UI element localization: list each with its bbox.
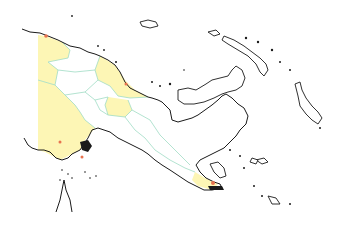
marker-daru xyxy=(81,156,84,159)
cape-york-coast xyxy=(56,180,72,212)
new-hanover-island xyxy=(208,30,220,36)
fly-delta-detail xyxy=(80,140,92,152)
marker-fly-delta xyxy=(59,141,62,144)
marker-north-coast xyxy=(44,34,48,38)
torres-strait-islands xyxy=(59,169,97,181)
marker-milne-bay xyxy=(211,181,215,185)
new-britain-island xyxy=(178,66,245,104)
manus-island xyxy=(140,20,158,28)
dentrecasteaux-island xyxy=(210,162,226,178)
papua-new-guinea-map xyxy=(0,0,347,226)
trobriand-island xyxy=(250,158,258,164)
louisiade-island xyxy=(268,196,280,204)
marker-madang xyxy=(125,83,128,86)
new-ireland-island xyxy=(222,36,268,76)
milne-bay-detail xyxy=(208,186,224,190)
bougainville-island xyxy=(295,82,322,124)
